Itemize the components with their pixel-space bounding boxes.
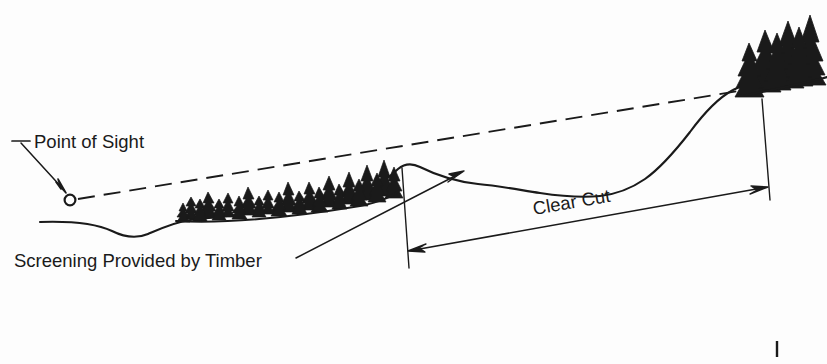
- point-of-sight-marker: [65, 195, 76, 206]
- screening-provided-by-timber-label: Screening Provided by Timber: [14, 250, 262, 271]
- terrain-cross-section-figure: Point of Sight Screening Provided by Tim…: [0, 0, 827, 364]
- timber-band: [176, 160, 403, 222]
- point-of-sight-label: Point of Sight: [34, 131, 144, 152]
- terrain-profile: [40, 87, 747, 237]
- ridge-timber: [735, 15, 827, 97]
- sight-line: [78, 90, 745, 199]
- clear-cut-label: Clear Cut: [531, 185, 612, 219]
